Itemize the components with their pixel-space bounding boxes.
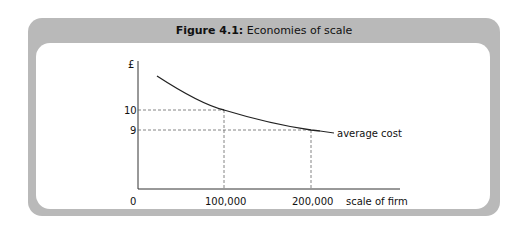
x-tick-200k: 200,000 <box>292 196 333 207</box>
chart: £ 10 9 0 100,000 200,000 scale of firm a… <box>0 0 521 245</box>
y-axis-label: £ <box>128 59 134 70</box>
origin-label: 0 <box>130 196 136 207</box>
x-axis-label: scale of firm <box>346 196 408 207</box>
curve-label: average cost <box>337 128 402 139</box>
y-tick-9: 9 <box>130 125 136 136</box>
curve-label-leader <box>320 131 334 133</box>
y-tick-10: 10 <box>124 105 137 116</box>
average-cost-curve <box>157 76 320 131</box>
x-tick-100k: 100,000 <box>205 196 246 207</box>
